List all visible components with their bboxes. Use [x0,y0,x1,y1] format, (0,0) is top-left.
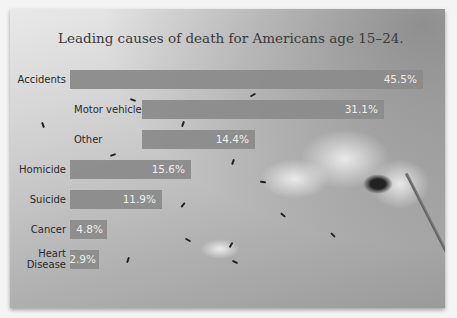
seed-icon [330,232,336,238]
bar-value: 31.1% [345,100,378,119]
bar-suicide: 11.9% [70,190,162,209]
seed-icon [232,260,238,264]
bar-homicide: 15.6% [70,160,191,179]
bar-value: 4.8% [76,220,103,239]
bar-label: Cancer [6,220,66,239]
bar-other: 14.4% [142,130,255,149]
bar-cancer: 4.8% [70,220,107,239]
dandelion-fluff [260,159,330,199]
bar-label: Homicide [6,160,66,179]
bar-heart-disease: 2.9% [70,250,99,269]
bar-label-line2: Disease [27,259,66,270]
bar-label: Heart Disease [6,248,66,270]
bar-value: 2.9% [69,250,96,269]
seed-icon [41,122,45,128]
dandelion-fluff [200,239,240,259]
bar-value: 11.9% [123,190,156,209]
seed-icon [110,153,116,157]
bar-value: 45.5% [384,70,417,89]
bar-value: 14.4% [216,130,249,149]
seed-icon [185,238,191,243]
seed-icon [280,212,286,217]
bar-label: Other [74,130,102,149]
bar-label: Accidents [6,70,66,89]
seed-icon [181,121,185,127]
seed-icon [180,202,185,208]
bar-label: Suicide [6,190,66,209]
chart-title: Leading causes of death for Americans ag… [58,30,438,46]
bar-label-line1: Heart [38,248,66,259]
dandelion-head [363,174,393,194]
seed-icon [250,93,256,98]
bar-accidents: 45.5% [70,70,423,89]
seed-icon [126,257,130,263]
bar-motor-vehicle: 31.1% [142,100,384,119]
seed-icon [231,159,235,165]
bar-value: 15.6% [152,160,185,179]
bar-label: Motor vehicle [74,100,142,119]
